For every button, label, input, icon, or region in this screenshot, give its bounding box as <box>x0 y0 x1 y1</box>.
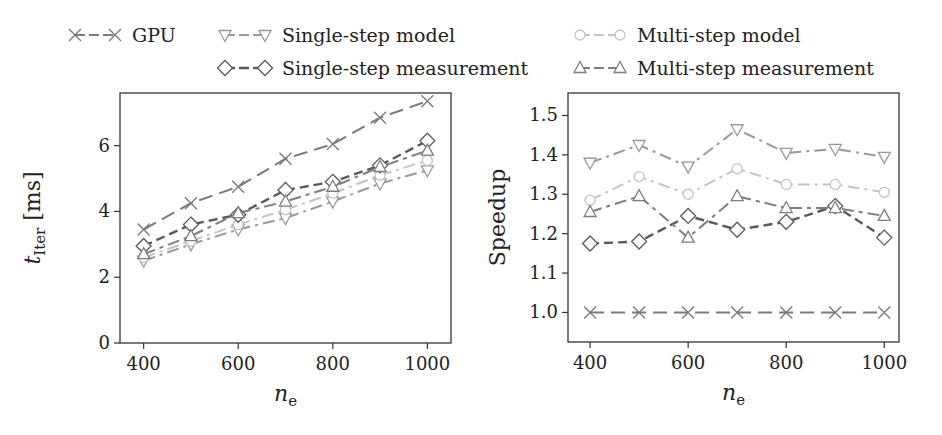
chart-iteration-time: 40060080010000246netIter [ms] <box>20 93 451 410</box>
triangle-down-marker-icon <box>584 158 596 169</box>
triangle-up-marker-icon <box>731 190 743 201</box>
x-marker-icon <box>878 306 890 318</box>
x-marker-icon <box>327 138 339 150</box>
x-marker-icon <box>185 197 197 209</box>
x-tick-label: 1000 <box>404 353 450 374</box>
x-axis-label: ne <box>274 381 297 410</box>
series-single-meas <box>583 199 892 251</box>
legend-item-multi-model: Multi-step model <box>575 24 801 46</box>
y-tick-label: 4 <box>99 200 110 221</box>
legend-item-single-meas: Single-step measurement <box>218 57 529 79</box>
triangle-up-marker-icon <box>633 190 645 201</box>
legend-label: Multi-step model <box>637 24 801 46</box>
circle-marker-icon <box>634 172 644 182</box>
x-tick-label: 600 <box>671 352 705 373</box>
x-tick-label: 600 <box>221 353 255 374</box>
x-marker-icon <box>280 153 292 165</box>
legend-label: Single-step model <box>282 24 455 46</box>
series-multi-model <box>139 155 433 262</box>
y-axis-label: tIter [ms] <box>20 171 49 264</box>
series-single-meas <box>136 133 435 253</box>
triangle-up-marker-icon <box>878 209 890 220</box>
triangle-up-marker-icon <box>421 144 433 155</box>
y-tick-label: 1.0 <box>529 301 558 322</box>
circle-marker-icon <box>683 189 693 199</box>
figure: GPUSingle-step modelMulti-step modelSing… <box>0 0 942 435</box>
diamond-marker-icon <box>681 208 696 223</box>
x-tick-label: 800 <box>316 353 350 374</box>
triangle-down-marker-icon <box>780 148 792 159</box>
diamond-marker-icon <box>583 236 598 251</box>
series-gpu <box>584 306 890 318</box>
legend-item-single-model: Single-step model <box>219 24 455 46</box>
x-marker-icon <box>232 181 244 193</box>
legend-label: GPU <box>132 24 176 46</box>
y-axis-label: Speedup <box>485 169 510 267</box>
x-tick-label: 400 <box>126 353 160 374</box>
diamond-marker-icon <box>258 61 273 76</box>
y-tick-label: 6 <box>99 135 110 156</box>
legend: GPUSingle-step modelMulti-step modelSing… <box>69 24 874 79</box>
y-tick-label: 1.3 <box>529 183 558 204</box>
x-marker-icon <box>374 112 386 124</box>
diamond-marker-icon <box>632 234 647 249</box>
y-tick-label: 1.1 <box>529 262 558 283</box>
circle-marker-icon <box>615 30 625 40</box>
y-tick-label: 2 <box>99 266 110 287</box>
circle-marker-icon <box>830 179 840 189</box>
x-marker-icon <box>421 95 433 107</box>
circle-marker-icon <box>879 187 889 197</box>
x-axis-label: ne <box>722 380 745 409</box>
legend-item-gpu: GPU <box>69 24 176 46</box>
x-marker-icon <box>138 224 150 236</box>
legend-item-multi-meas: Multi-step measurement <box>574 57 874 79</box>
y-tick-label: 0 <box>99 332 110 353</box>
triangle-down-marker-icon <box>731 125 743 136</box>
circle-marker-icon <box>732 164 742 174</box>
series-multi-meas <box>138 144 434 259</box>
circle-marker-icon <box>575 30 585 40</box>
y-tick-label: 1.2 <box>529 223 558 244</box>
triangle-down-marker-icon <box>878 152 890 163</box>
chart-speedup: 40060080010001.01.11.21.31.41.5neSpeedup <box>485 93 907 409</box>
series-single-model <box>138 166 434 267</box>
y-tick-label: 1.5 <box>529 104 558 125</box>
y-tick-label: 1.4 <box>529 144 558 165</box>
triangle-down-marker-icon <box>682 162 694 173</box>
diamond-marker-icon <box>730 222 745 237</box>
x-tick-label: 800 <box>769 352 803 373</box>
diamond-marker-icon <box>218 61 233 76</box>
legend-label: Single-step measurement <box>282 57 528 79</box>
circle-marker-icon <box>422 155 432 165</box>
diamond-marker-icon <box>877 230 892 245</box>
circle-marker-icon <box>781 179 791 189</box>
x-tick-label: 400 <box>573 352 607 373</box>
legend-label: Multi-step measurement <box>637 57 874 79</box>
circle-marker-icon <box>585 195 595 205</box>
x-tick-label: 1000 <box>861 352 907 373</box>
diamond-marker-icon <box>779 214 794 229</box>
